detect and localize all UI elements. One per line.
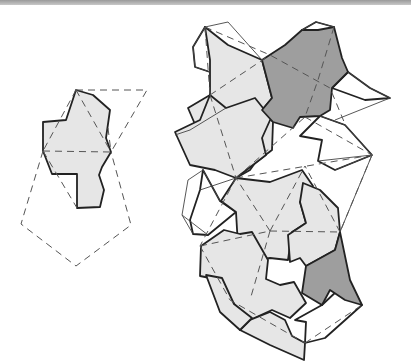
right-figure [175, 22, 390, 360]
single-tile [43, 90, 111, 208]
dark-tile [262, 27, 348, 128]
left-figure [21, 90, 147, 266]
tiling-diagram [0, 0, 411, 362]
